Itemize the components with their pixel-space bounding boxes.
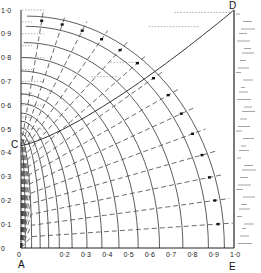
equipotential-arc <box>22 58 160 249</box>
y-tick-label: 0·7 <box>1 78 11 85</box>
radial-dashed-line <box>21 223 233 248</box>
equipotential-arc <box>21 83 119 248</box>
arrow-marker <box>136 62 139 64</box>
y-tick-label: 0·5 <box>1 126 11 133</box>
y-axis-ticks: 00·10·20·30·40·50·60·70·80·91·0 <box>1 7 11 252</box>
radial-dashed-line <box>21 89 179 248</box>
arrow-marker <box>81 29 84 31</box>
y-tick-label: 0·6 <box>1 102 11 109</box>
y-tick-label: 0·9 <box>1 30 11 37</box>
right-wall-hatching <box>236 14 256 244</box>
x-tick-label: 0·7 <box>166 251 176 258</box>
arrow-marker <box>100 38 103 40</box>
x-tick-label: 0·5 <box>124 251 134 258</box>
radial-dashed-line <box>21 199 229 249</box>
y-tick-label: 0·2 <box>1 197 11 204</box>
radial-dashed-line <box>21 175 224 249</box>
x-tick-label: 0·3 <box>81 251 91 258</box>
arrow-marker <box>208 176 211 178</box>
x-tick-label: 0·6 <box>145 251 155 258</box>
flow-net-diagram: 00·10·20·30·40·50·60·70·80·91·0 00·20·30… <box>0 0 261 273</box>
arrow-marker <box>152 77 155 79</box>
point-label-A: A <box>18 259 25 270</box>
x-tick-label: 0·2 <box>60 251 70 258</box>
radial-flow-lines <box>21 11 233 248</box>
arrow-marker <box>217 223 220 225</box>
x-tick-label: 1·0 <box>230 251 240 258</box>
radial-dashed-line <box>21 108 193 248</box>
arrow-marker <box>167 94 170 96</box>
point-label-E: E <box>229 261 236 272</box>
arrow-marker <box>40 20 43 22</box>
y-tick-label: 0·8 <box>1 54 11 61</box>
point-label-D: D <box>229 0 236 11</box>
x-axis-ticks: 00·20·30·40·50·60·70·80·91·0 <box>17 251 240 258</box>
y-tick-label: 1·0 <box>1 7 11 14</box>
arrow-marker <box>61 23 64 25</box>
x-tick-label: 0 <box>17 251 21 258</box>
arrow-marker <box>200 154 203 156</box>
arrow-marker <box>119 49 122 51</box>
x-tick-label: 0·4 <box>102 251 112 258</box>
y-tick-label: 0·1 <box>1 221 11 228</box>
x-tick-label: 0·9 <box>209 251 219 258</box>
x-tick-label: 0·8 <box>187 251 197 258</box>
arrow-marker <box>191 133 194 135</box>
arrow-marker <box>213 199 216 201</box>
y-tick-label: 0·4 <box>1 149 11 156</box>
radial-dashed-line <box>21 71 164 248</box>
equipotential-arcs <box>21 16 224 248</box>
point-label-C: C <box>11 139 18 150</box>
y-tick-label: 0 <box>1 245 5 252</box>
arrow-marker <box>180 112 183 114</box>
y-tick-label: 0·3 <box>1 173 11 180</box>
